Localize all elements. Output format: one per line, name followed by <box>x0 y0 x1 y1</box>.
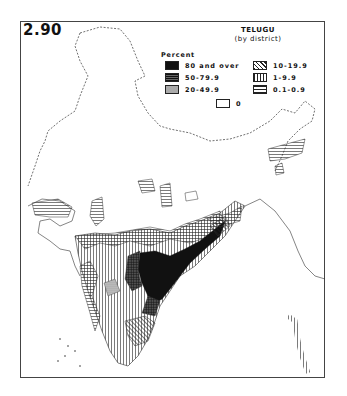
plate-number: 2.90 <box>23 21 62 39</box>
swatch-horizontal-lines <box>253 85 267 94</box>
swatch-diagonal-lines <box>253 61 267 70</box>
swatch-solid-black <box>165 61 179 70</box>
map-subtitle: (by district) <box>218 35 298 44</box>
legend-item-50-79: 50-79.9 <box>165 73 220 82</box>
swatch-vertical-lines <box>253 73 267 82</box>
legend-item-1-9: 1-9.9 <box>253 73 297 82</box>
legend-heading: Percent <box>161 51 195 59</box>
legend-item-zero: 0 <box>216 99 242 108</box>
legend-item-10-19: 10-19.9 <box>253 61 308 70</box>
swatch-blank <box>216 99 230 108</box>
legend-item-0-1-0-9: 0.1-0.9 <box>253 85 306 94</box>
andaman-nicobar-islands <box>288 316 308 373</box>
legend-item-80-and-over: 80 and over <box>165 61 240 70</box>
swatch-fine-dots <box>165 85 179 94</box>
legend-item-20-49: 20-49.9 <box>165 85 220 94</box>
map-title: TELUGU (by district) <box>218 26 298 44</box>
swatch-cross-hatch <box>165 73 179 82</box>
